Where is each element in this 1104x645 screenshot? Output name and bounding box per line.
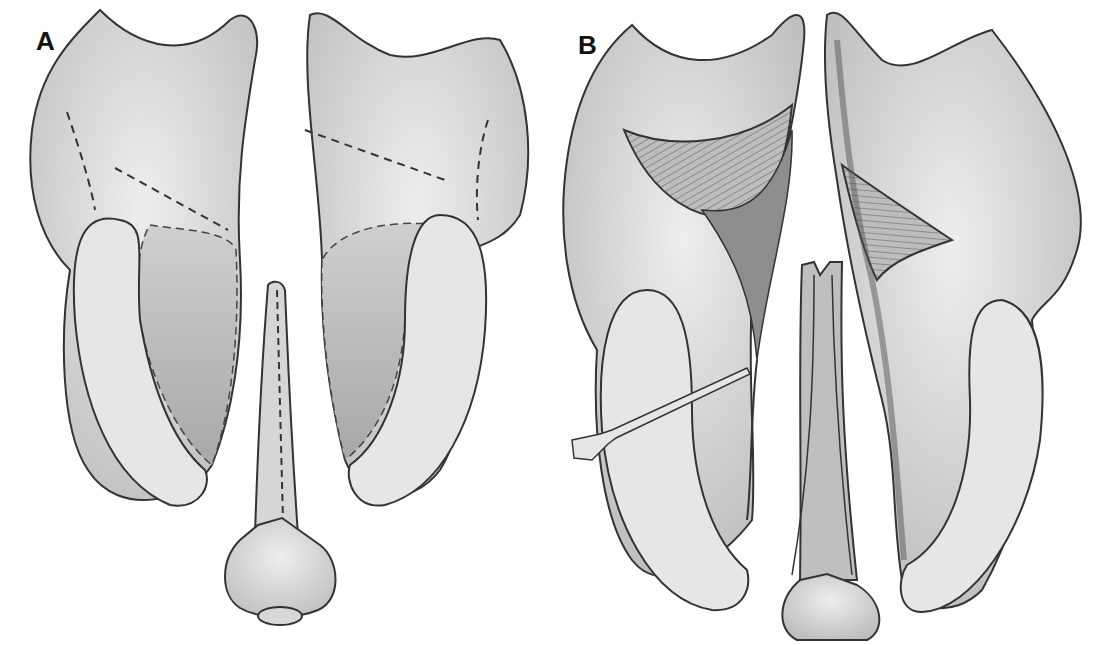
panel-b: B: [552, 0, 1104, 645]
nose: [782, 574, 879, 640]
panel-a: A: [0, 0, 552, 645]
vomer: [255, 282, 298, 535]
vomer-flaps: [800, 262, 857, 580]
panel-a-illustration: [0, 0, 552, 645]
nose: [225, 518, 336, 617]
panel-b-illustration: [552, 0, 1104, 645]
